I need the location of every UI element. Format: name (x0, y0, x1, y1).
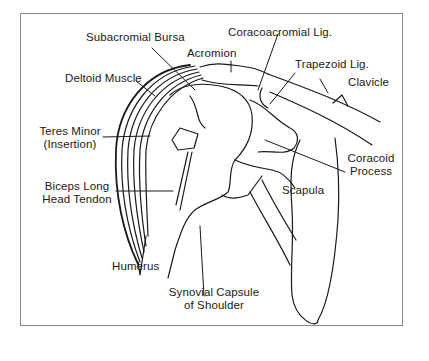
label-coracoid-process: Coracoid Process (345, 152, 397, 178)
label-synovial-capsule-line2: of Shoulder (164, 299, 264, 312)
coracoid-process-drawing (222, 88, 297, 198)
label-trapezoid-lig: Trapezoid Lig. (295, 58, 369, 71)
humerus-drawing (168, 84, 252, 278)
label-synovial-capsule-line1: Synovial Capsule (164, 286, 264, 299)
label-coracoid-process-line1: Coracoid (345, 152, 397, 165)
label-coracoacromial-lig: Coracoacromial Lig. (228, 26, 332, 39)
label-clavicle: Clavicle (348, 76, 389, 89)
label-teres-minor: Teres Minor (Insertion) (36, 125, 104, 151)
label-acromion: Acromion (187, 47, 236, 60)
label-deltoid-muscle: Deltoid Muscle (65, 72, 142, 85)
label-teres-minor-line2: (Insertion) (36, 138, 104, 151)
label-subacromial-bursa: Subacromial Bursa (86, 31, 185, 44)
label-humerus: Humerus (112, 260, 159, 273)
label-biceps-line2: Head Tendon (38, 193, 116, 206)
label-synovial-capsule: Synovial Capsule of Shoulder (164, 286, 264, 312)
label-biceps-line1: Biceps Long (38, 180, 116, 193)
label-scapula: Scapula (282, 184, 324, 197)
label-coracoid-process-line2: Process (345, 165, 397, 178)
label-teres-minor-line1: Teres Minor (36, 125, 104, 138)
label-biceps-long-head-tendon: Biceps Long Head Tendon (38, 180, 116, 206)
